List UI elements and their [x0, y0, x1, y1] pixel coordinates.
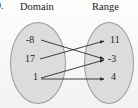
range-value-2: 4	[111, 71, 116, 82]
domain-value-0: -8	[26, 34, 34, 45]
range-value-1: -3	[108, 53, 116, 64]
domain-value-1: 17	[25, 53, 35, 64]
range-value-0: 11	[110, 34, 120, 45]
arrow-1-to-neg3	[41, 60, 104, 78]
domain-value-2: 1	[33, 71, 38, 82]
figure-container: 9. Domain Range -8 17 1 11 -3 4	[0, 0, 138, 108]
arrow-layer	[0, 0, 138, 108]
